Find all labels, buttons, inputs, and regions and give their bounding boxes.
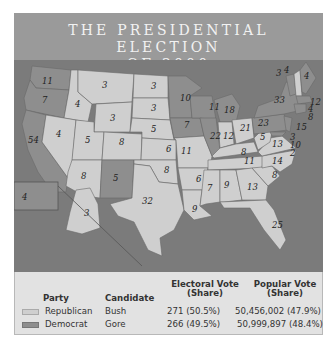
hawaii-inset bbox=[14, 182, 58, 210]
svg-text:12: 12 bbox=[223, 131, 234, 141]
row-party: Republican bbox=[45, 306, 92, 316]
svg-text:3: 3 bbox=[276, 68, 281, 78]
svg-text:9: 9 bbox=[224, 180, 230, 190]
row-candidate: Gore bbox=[105, 319, 126, 329]
svg-text:15: 15 bbox=[296, 122, 307, 132]
page-title: THE PRESIDENTIAL ELECTION OF 2000 bbox=[14, 13, 323, 60]
svg-text:21: 21 bbox=[239, 123, 251, 133]
svg-text:11: 11 bbox=[42, 76, 53, 86]
svg-text:3: 3 bbox=[151, 81, 156, 91]
svg-text:13: 13 bbox=[272, 139, 283, 149]
svg-text:8: 8 bbox=[272, 170, 278, 180]
svg-text:5: 5 bbox=[151, 124, 156, 134]
svg-text:3: 3 bbox=[110, 113, 115, 123]
svg-text:25: 25 bbox=[271, 220, 283, 230]
svg-text:23: 23 bbox=[257, 118, 269, 128]
svg-text:4: 4 bbox=[55, 129, 61, 139]
header-popular: Popular Vote (Share) bbox=[245, 280, 325, 298]
svg-text:22: 22 bbox=[209, 131, 221, 141]
svg-text:8: 8 bbox=[308, 112, 314, 122]
svg-text:4: 4 bbox=[74, 99, 80, 109]
svg-text:8: 8 bbox=[81, 171, 87, 181]
row-popular: 50,999,897 (48.4%) bbox=[237, 319, 323, 329]
svg-text:5: 5 bbox=[85, 135, 90, 145]
header-party: Party bbox=[43, 294, 69, 303]
header-candidate: Candidate bbox=[105, 294, 154, 303]
svg-text:4: 4 bbox=[283, 65, 289, 75]
row-electoral: 266 (49.5%) bbox=[167, 319, 220, 329]
svg-text:7: 7 bbox=[42, 95, 48, 105]
header-electoral: Electoral Vote (Share) bbox=[165, 280, 245, 298]
row-electoral: 271 (50.5%) bbox=[167, 306, 220, 316]
row-party: Democrat bbox=[45, 319, 87, 329]
republican-swatch bbox=[22, 309, 39, 315]
row-candidate: Bush bbox=[105, 306, 126, 316]
svg-text:10: 10 bbox=[180, 93, 191, 103]
legend-table: Party Candidate Electoral Vote (Share) P… bbox=[14, 272, 323, 335]
svg-text:11: 11 bbox=[181, 146, 192, 156]
svg-text:11: 11 bbox=[244, 156, 255, 166]
title-line-1: THE PRESIDENTIAL ELECTION bbox=[14, 22, 323, 56]
svg-text:14: 14 bbox=[272, 156, 283, 166]
state-ct bbox=[294, 104, 306, 114]
svg-text:7: 7 bbox=[207, 183, 213, 193]
svg-text:8: 8 bbox=[119, 137, 125, 147]
svg-text:32: 32 bbox=[142, 196, 153, 206]
svg-text:4: 4 bbox=[21, 192, 27, 202]
state-md bbox=[270, 132, 286, 136]
svg-text:18: 18 bbox=[224, 105, 235, 115]
us-electoral-map: 11754 443 358 853 356 83210 7116 91122 1… bbox=[14, 60, 323, 272]
svg-text:5: 5 bbox=[260, 132, 265, 142]
svg-text:54: 54 bbox=[28, 135, 39, 145]
svg-text:3: 3 bbox=[102, 80, 107, 90]
democrat-swatch bbox=[22, 322, 39, 328]
svg-text:3: 3 bbox=[151, 103, 156, 113]
svg-text:6: 6 bbox=[166, 144, 172, 154]
svg-text:9: 9 bbox=[192, 204, 198, 214]
election-infographic: THE PRESIDENTIAL ELECTION OF 2000 bbox=[14, 13, 323, 335]
svg-text:5: 5 bbox=[113, 173, 118, 183]
svg-text:2: 2 bbox=[289, 148, 295, 158]
svg-text:13: 13 bbox=[247, 182, 258, 192]
svg-text:4: 4 bbox=[303, 71, 309, 81]
svg-text:6: 6 bbox=[196, 174, 202, 184]
svg-text:33: 33 bbox=[274, 95, 285, 105]
svg-text:11: 11 bbox=[209, 102, 220, 112]
svg-text:3: 3 bbox=[84, 208, 89, 218]
row-popular: 50,456,002 (47.9%) bbox=[235, 306, 321, 316]
svg-text:8: 8 bbox=[164, 165, 170, 175]
map-svg: 11754 443 358 853 356 83210 7116 91122 1… bbox=[14, 60, 323, 272]
svg-text:7: 7 bbox=[184, 120, 190, 130]
